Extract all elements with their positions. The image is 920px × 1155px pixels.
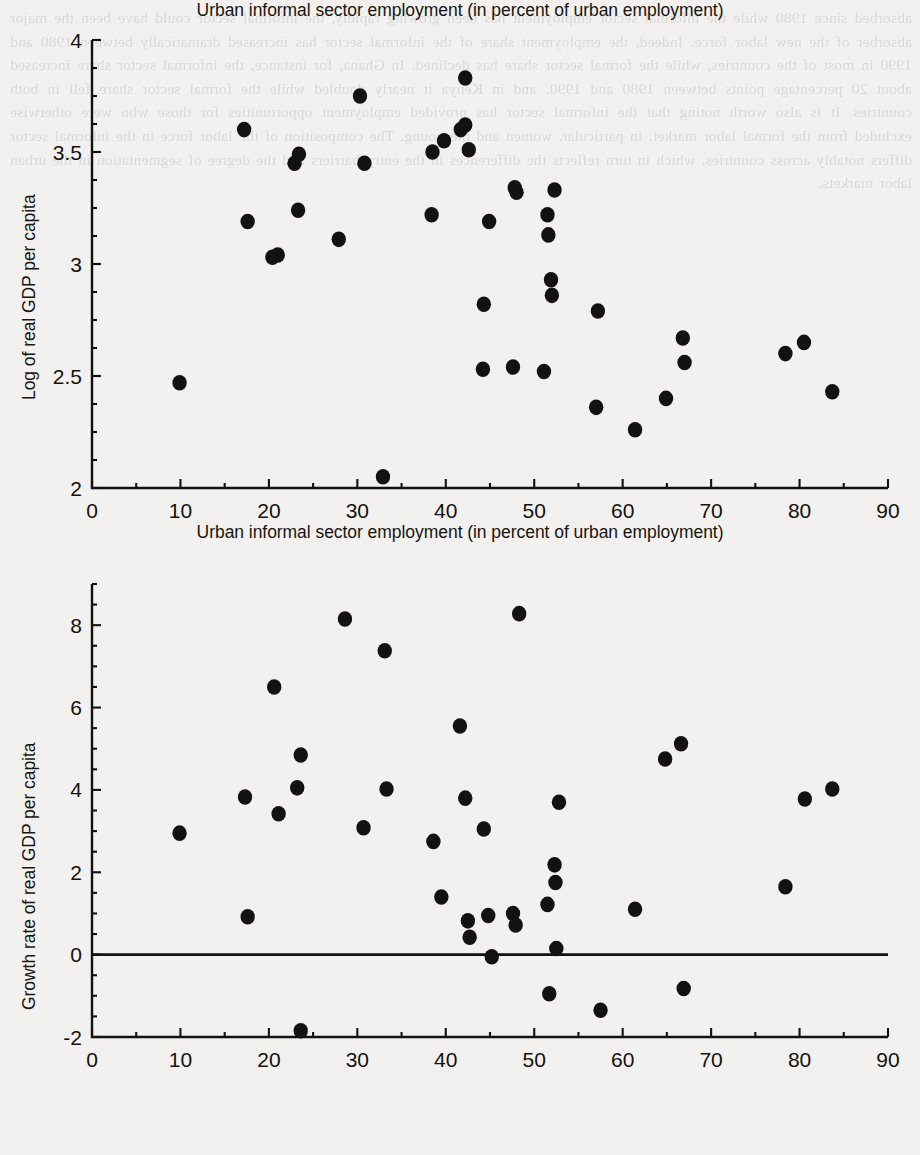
data-point	[271, 806, 285, 822]
svg-text:3.5: 3.5	[53, 141, 82, 164]
svg-text:70: 70	[699, 1048, 722, 1071]
svg-text:-2: -2	[63, 1026, 82, 1049]
svg-text:8: 8	[70, 614, 82, 637]
plot-area-bottom: 0102030405060708090-202468	[0, 560, 920, 1155]
data-point	[453, 718, 467, 734]
data-point	[376, 469, 390, 485]
svg-text:0: 0	[86, 1048, 98, 1071]
svg-text:40: 40	[434, 499, 457, 522]
data-point	[292, 146, 306, 162]
svg-text:80: 80	[788, 1048, 811, 1071]
data-point	[425, 144, 439, 160]
data-point	[825, 384, 839, 400]
data-point	[378, 643, 392, 659]
data-point	[778, 346, 792, 362]
data-point	[659, 391, 673, 407]
data-point	[589, 400, 603, 416]
svg-text:90: 90	[876, 1048, 899, 1071]
data-point	[458, 117, 472, 133]
data-point	[508, 917, 522, 933]
data-point	[462, 142, 476, 158]
x-axis-title-top: Urban informal sector employment (in per…	[0, 522, 920, 543]
data-point	[237, 122, 251, 138]
data-point	[677, 355, 691, 371]
svg-text:70: 70	[699, 499, 722, 522]
data-point	[240, 214, 254, 230]
data-point	[485, 949, 499, 965]
svg-text:60: 60	[611, 499, 634, 522]
svg-text:30: 30	[346, 1048, 369, 1071]
svg-text:30: 30	[346, 499, 369, 522]
data-point	[676, 981, 690, 997]
data-point	[353, 88, 367, 104]
data-point	[356, 820, 370, 836]
data-point	[172, 375, 186, 391]
data-point	[482, 214, 496, 230]
data-point	[509, 185, 523, 201]
data-point	[506, 359, 520, 375]
data-point	[537, 364, 551, 380]
data-point	[477, 821, 491, 837]
y-axis-title-top: Log of real GDP per capita	[19, 194, 40, 400]
svg-text:2: 2	[70, 861, 82, 884]
data-point	[477, 297, 491, 313]
data-point	[542, 986, 556, 1002]
data-point	[294, 1023, 308, 1039]
data-point	[294, 747, 308, 763]
data-point	[593, 1002, 607, 1018]
x-axis-title-bottom: Urban informal sector employment (in per…	[0, 0, 920, 21]
data-point	[291, 202, 305, 218]
data-point	[658, 751, 672, 767]
svg-text:50: 50	[523, 1048, 546, 1071]
data-point	[476, 362, 490, 378]
data-point	[462, 930, 476, 946]
data-point	[458, 790, 472, 806]
plot-area-top: 010203040506070809022.533.54	[0, 0, 920, 560]
data-point	[628, 902, 642, 918]
data-point	[238, 789, 252, 805]
svg-text:20: 20	[257, 499, 280, 522]
data-point	[424, 207, 438, 223]
svg-text:2.5: 2.5	[53, 365, 82, 388]
svg-text:0: 0	[70, 943, 82, 966]
data-point	[332, 232, 346, 248]
svg-text:4: 4	[70, 778, 82, 801]
scatter-chart-growth-rate: 0102030405060708090-202468	[0, 560, 920, 1155]
svg-text:20: 20	[257, 1048, 280, 1071]
data-point	[674, 736, 688, 752]
svg-text:6: 6	[70, 696, 82, 719]
y-axis-title-bottom: Growth rate of real GDP per capita	[19, 743, 40, 1010]
data-point	[548, 875, 562, 891]
svg-text:80: 80	[788, 499, 811, 522]
data-point	[434, 889, 448, 905]
data-point	[437, 133, 451, 149]
data-point	[676, 330, 690, 346]
data-point	[798, 791, 812, 807]
svg-text:40: 40	[434, 1048, 457, 1071]
svg-text:60: 60	[611, 1048, 634, 1071]
svg-text:3: 3	[70, 253, 82, 276]
data-point	[540, 207, 554, 223]
data-point	[591, 303, 605, 319]
data-point	[545, 288, 559, 304]
data-point-group	[172, 70, 839, 484]
data-point	[290, 780, 304, 796]
data-point	[481, 908, 495, 924]
data-point	[628, 422, 642, 438]
data-point	[379, 781, 393, 797]
data-point	[426, 834, 440, 850]
data-point	[512, 606, 526, 622]
data-point-group	[172, 606, 839, 1039]
svg-text:10: 10	[169, 1048, 192, 1071]
data-point	[825, 781, 839, 797]
data-point	[172, 825, 186, 841]
data-point	[357, 155, 371, 171]
data-point	[240, 909, 254, 925]
svg-text:2: 2	[70, 477, 82, 500]
data-point	[544, 272, 558, 288]
data-point	[458, 70, 472, 86]
data-point	[540, 897, 554, 913]
data-point	[549, 941, 563, 957]
scatter-chart-log-gdp: 010203040506070809022.533.54 Urban infor…	[0, 0, 920, 560]
data-point	[271, 247, 285, 263]
